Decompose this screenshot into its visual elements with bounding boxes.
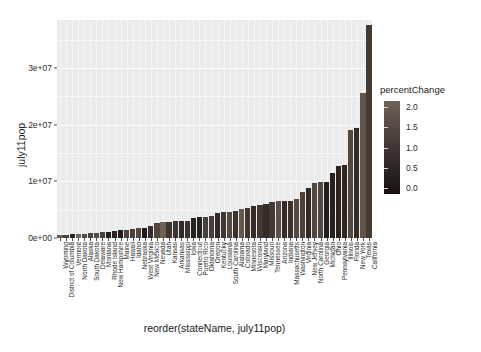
x-axis-tickmark xyxy=(272,238,273,241)
x-axis-tickmark xyxy=(236,238,237,241)
bar xyxy=(173,221,178,238)
bar xyxy=(209,216,214,238)
x-axis-tickmark xyxy=(90,238,91,241)
legend-title: percentChange xyxy=(380,84,478,95)
bar xyxy=(282,201,287,238)
bar xyxy=(118,230,123,238)
legend-tick-label: 1.5 xyxy=(406,122,418,132)
y-axis-tick-label: 3e+07 xyxy=(28,63,52,73)
x-axis-tickmark xyxy=(260,238,261,241)
x-axis-tickmark xyxy=(157,238,158,241)
bar xyxy=(306,188,311,238)
x-axis-tickmark xyxy=(127,238,128,241)
bar xyxy=(233,211,238,238)
legend-tickmark xyxy=(384,168,388,169)
x-axis-tickmark xyxy=(266,238,267,241)
x-axis-tick-label: California xyxy=(371,242,378,269)
bar xyxy=(245,208,250,238)
bar xyxy=(300,192,305,238)
plot-panel xyxy=(57,20,372,238)
bar xyxy=(342,165,347,238)
x-axis-tick-labels: WyomingDistrict of ColumbiaVermontNorth … xyxy=(57,242,372,314)
bar xyxy=(269,202,274,238)
x-axis-tickmark xyxy=(242,238,243,241)
legend-tick-label: 0.5 xyxy=(406,163,418,173)
x-axis-tickmark xyxy=(187,238,188,241)
chart-root: july11pop 0e+001e+072e+073e+07 WyomingDi… xyxy=(0,0,481,352)
bar xyxy=(336,166,341,238)
bar xyxy=(251,206,256,238)
bar xyxy=(263,204,268,238)
y-axis-tick-label: 1e+07 xyxy=(28,176,52,186)
x-axis-tickmark xyxy=(151,238,152,241)
x-axis-tickmark xyxy=(199,238,200,241)
bar xyxy=(130,229,135,238)
bar xyxy=(136,228,141,238)
bar xyxy=(142,228,147,239)
bar xyxy=(203,217,208,238)
legend-tickmark xyxy=(384,107,388,108)
x-axis-tickmark xyxy=(224,238,225,241)
legend-tick-label: 0.0 xyxy=(406,183,418,193)
bar xyxy=(160,222,165,238)
bar xyxy=(197,217,202,238)
y-axis: 0e+001e+072e+073e+07 xyxy=(24,20,57,238)
x-axis-tickmark xyxy=(278,238,279,241)
legend: percentChange 2.01.51.00.50.0 xyxy=(378,84,478,204)
x-axis-tickmark xyxy=(66,238,67,241)
x-axis-tickmark xyxy=(357,238,358,241)
x-axis-tickmark xyxy=(351,238,352,241)
legend-tickmark xyxy=(384,188,388,189)
bar xyxy=(348,130,353,238)
x-axis-tickmark xyxy=(314,238,315,241)
legend-tickmark xyxy=(384,148,388,149)
x-axis-tickmark xyxy=(115,238,116,241)
y-axis-tick-label: 2e+07 xyxy=(28,120,52,130)
bar xyxy=(257,205,262,238)
x-axis-tickmark xyxy=(284,238,285,241)
bar xyxy=(294,199,299,238)
x-axis-tickmark xyxy=(108,238,109,241)
x-axis-tickmark xyxy=(78,238,79,241)
y-axis-tick-label: 0e+00 xyxy=(28,233,52,243)
x-axis-tickmark xyxy=(290,238,291,241)
bar xyxy=(227,212,232,238)
legend-tick-label: 1.0 xyxy=(406,143,418,153)
x-axis-tickmark xyxy=(296,238,297,241)
bar xyxy=(324,182,329,238)
x-axis-tickmark xyxy=(205,238,206,241)
bar xyxy=(360,93,365,238)
bar xyxy=(124,230,129,238)
legend-body: 2.01.51.00.50.0 xyxy=(378,101,478,196)
bar xyxy=(288,201,293,238)
x-axis-tickmark xyxy=(211,238,212,241)
bar xyxy=(179,221,184,238)
bar xyxy=(148,226,153,238)
bar xyxy=(366,25,371,238)
bar xyxy=(318,182,323,238)
bar xyxy=(221,212,226,238)
bar xyxy=(239,209,244,238)
x-axis-tickmark xyxy=(248,238,249,241)
bar xyxy=(354,128,359,238)
x-axis-tickmark xyxy=(72,238,73,241)
x-axis-tickmark xyxy=(175,238,176,241)
x-axis-tickmark xyxy=(145,238,146,241)
x-axis-tickmark xyxy=(133,238,134,241)
x-axis-tickmark xyxy=(84,238,85,241)
bar xyxy=(312,183,317,238)
bar xyxy=(154,223,159,238)
x-axis-tickmark xyxy=(121,238,122,241)
bar xyxy=(112,231,117,238)
bar xyxy=(185,221,190,238)
x-axis-tickmark xyxy=(308,238,309,241)
bar xyxy=(191,218,196,238)
x-axis-tickmark xyxy=(345,238,346,241)
x-axis-tickmark xyxy=(218,238,219,241)
x-axis-title: reorder(stateName, july11pop) xyxy=(57,322,372,334)
x-axis-tickmark xyxy=(139,238,140,241)
x-axis-tickmark xyxy=(369,238,370,241)
bar xyxy=(330,173,335,238)
x-axis-tickmark xyxy=(181,238,182,241)
legend-tickmark xyxy=(384,127,388,128)
